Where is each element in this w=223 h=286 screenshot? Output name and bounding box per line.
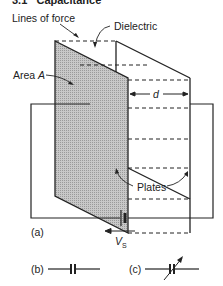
figure-c-label: (c)	[129, 264, 141, 275]
dielectric-pointer	[95, 26, 110, 46]
capacitor-diagram	[0, 0, 223, 286]
lines-of-force-label: Lines of force	[12, 13, 75, 24]
plates-pointer-right	[167, 173, 187, 186]
dielectric-label: Dielectric	[114, 21, 157, 32]
area-label: Area A	[13, 70, 45, 81]
variable-capacitor-symbol	[145, 258, 199, 280]
source-label: VS	[115, 236, 127, 249]
figure-a-label: (a)	[31, 227, 44, 238]
capacitor-symbol	[48, 264, 100, 274]
distance-label: d	[153, 89, 159, 100]
plates-label: Plates	[137, 182, 166, 193]
distance-arrow	[130, 92, 188, 96]
front-plate	[55, 41, 128, 233]
figure-b-label: (b)	[31, 264, 44, 275]
